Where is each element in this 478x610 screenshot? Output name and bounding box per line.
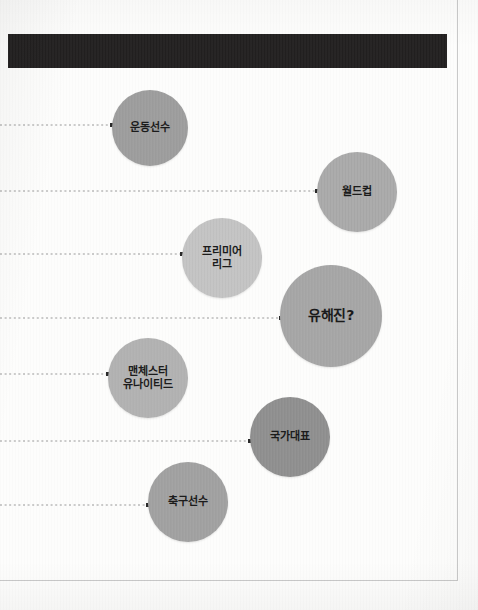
connector-lines-layer <box>0 0 478 610</box>
bubble-label-world-cup: 월드컵 <box>338 185 375 198</box>
paper-tint-overlay <box>0 0 478 610</box>
bubble-label-yoo-hae-jin: 유해진? <box>304 307 358 324</box>
bubble-label-soccer-player: 축구선수 <box>164 495 211 508</box>
bubble-premier-league[interactable]: 프리미어 리그 <box>182 218 262 298</box>
scan-texture-overlay <box>0 0 478 610</box>
bubble-yoo-hae-jin[interactable]: 유해진? <box>280 265 382 367</box>
bubble-manchester-united[interactable]: 맨체스터 유나이티드 <box>108 338 188 418</box>
scanned-page: 운동선수월드컵프리미어 리그유해진?맨체스터 유나이티드국가대표축구선수 <box>0 0 478 610</box>
bubble-label-manchester-united: 맨체스터 유나이티드 <box>119 365 176 392</box>
header-bar-block <box>8 34 447 68</box>
bubble-national-team[interactable]: 국가대표 <box>250 397 330 477</box>
bubble-soccer-player[interactable]: 축구선수 <box>148 462 228 542</box>
bubble-label-athlete: 운동선수 <box>126 121 173 134</box>
page-border-bottom <box>0 580 458 581</box>
bubble-label-national-team: 국가대표 <box>266 430 313 443</box>
bubble-label-premier-league: 프리미어 리그 <box>198 245 245 272</box>
bubble-athlete[interactable]: 운동선수 <box>112 90 188 166</box>
bubble-world-cup[interactable]: 월드컵 <box>317 152 397 232</box>
page-border-right <box>457 0 458 581</box>
